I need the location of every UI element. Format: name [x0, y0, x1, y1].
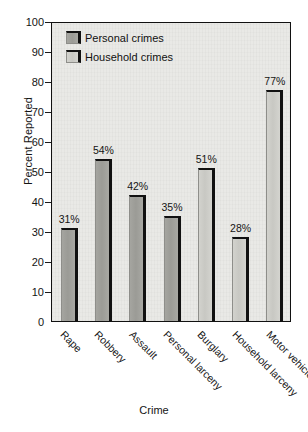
x-axis-title: Crime — [0, 404, 308, 416]
bar-value-label: 77% — [264, 76, 285, 87]
bar-group: 35% — [164, 22, 181, 321]
bar-group: 42% — [129, 22, 146, 321]
y-tick-label: 90 — [18, 47, 44, 57]
y-tick-label: 70 — [18, 107, 44, 117]
bar-value-label: 54% — [93, 145, 114, 156]
bar-value-label: 35% — [161, 202, 182, 213]
x-category-label: Rape — [58, 329, 84, 355]
bars-layer: 31%54%42%35%51%28%77% — [52, 23, 290, 321]
bar-value-label: 28% — [230, 223, 251, 234]
x-axis-category-labels: RapeRobberyAssaultPersonal larcenyBurgla… — [0, 324, 308, 410]
bar-group: 77% — [266, 22, 283, 321]
bar — [198, 168, 215, 321]
bar-group: 31% — [61, 22, 78, 321]
bar — [61, 228, 78, 321]
y-tick-label: 20 — [18, 257, 44, 267]
y-tick-label: 60 — [18, 137, 44, 147]
bar-chart-figure: Percent Reported 1009080706050403020100 … — [0, 0, 308, 432]
bar-value-label: 51% — [196, 154, 217, 165]
y-tick-label: 100 — [18, 17, 44, 27]
x-category-label: Household larceny — [230, 329, 299, 398]
plot-area: Personal crimesHousehold crimes 31%54%42… — [51, 22, 291, 322]
bar-group: 51% — [198, 22, 215, 321]
x-category-label: Robbery — [93, 329, 129, 365]
bar-value-label: 31% — [59, 214, 80, 225]
bar-value-label: 42% — [127, 181, 148, 192]
bar-group: 28% — [232, 22, 249, 321]
bar — [129, 195, 146, 321]
bar — [232, 237, 249, 321]
bar-group: 54% — [95, 22, 112, 321]
y-tick-label: 80 — [18, 77, 44, 87]
bar — [164, 216, 181, 321]
y-tick-label: 30 — [18, 227, 44, 237]
x-category-label: Assault — [127, 329, 159, 361]
y-tick-label: 40 — [18, 197, 44, 207]
y-tick-label: 50 — [18, 167, 44, 177]
y-tick-label: 10 — [18, 287, 44, 297]
bar — [95, 159, 112, 321]
bar — [266, 90, 283, 321]
